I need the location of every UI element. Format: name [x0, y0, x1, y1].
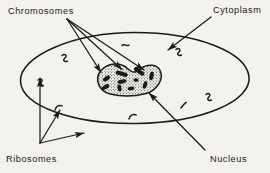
nucleus-leader [149, 93, 205, 150]
ribosomes-leader [40, 78, 84, 143]
label-cytoplasm: Cytoplasm [213, 5, 261, 15]
cytoplasm-leader [168, 17, 211, 50]
label-chromosomes: Chromosomes [8, 6, 74, 16]
label-nucleus: Nucleus [210, 154, 247, 164]
cell-diagram-figure: Chromosomes Cytoplasm Ribosomes Nucleus [0, 0, 270, 173]
chromosomes-leader [67, 19, 144, 73]
cell-diagram-canvas: Chromosomes Cytoplasm Ribosomes Nucleus [0, 0, 270, 173]
label-ribosomes: Ribosomes [6, 154, 57, 164]
